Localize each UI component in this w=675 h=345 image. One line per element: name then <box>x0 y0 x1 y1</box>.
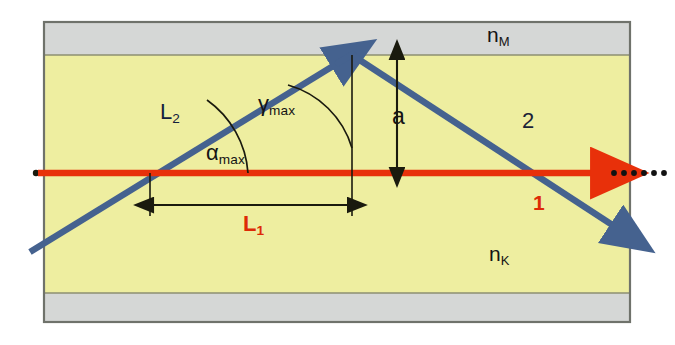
optical-fiber-diagram: nM nK L2 αmax γmax a L1 1 2 <box>0 0 675 345</box>
core-refractive-index-label: nK <box>489 243 510 264</box>
cladding-refractive-index-label: nM <box>487 24 510 45</box>
meridional-ray-label: 2 <box>522 110 534 132</box>
reflection-angle-gamma-max-label: γmax <box>258 93 295 115</box>
diagram-canvas <box>0 0 675 345</box>
path-length-l2-label: L2 <box>160 101 180 123</box>
core-radius-label: a <box>392 105 405 128</box>
axial-ray-path <box>33 170 667 176</box>
acceptance-angle-alpha-max-label: αmax <box>206 142 245 164</box>
axial-ray-label: 1 <box>533 192 545 213</box>
path-length-l1-label: L1 <box>243 213 264 235</box>
